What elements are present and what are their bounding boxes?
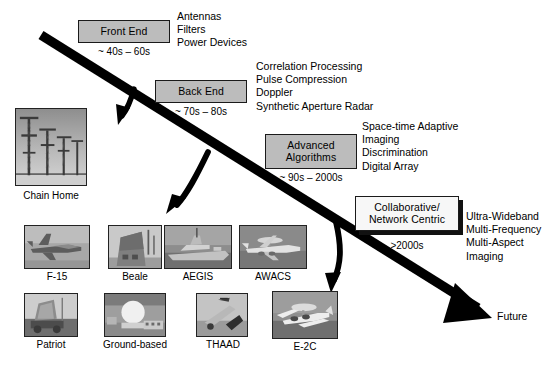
photo-patriot[interactable] (24, 293, 78, 337)
timeline-diagram: Front End ~ 40s – 60s Antennas Filters P… (0, 0, 554, 366)
tech-item: Imaging (362, 133, 458, 146)
photo-caption-chain-home: Chain Home (5, 190, 97, 201)
awacs-aircraft-photo (240, 226, 306, 268)
e2c-hawkeye-photo (273, 292, 337, 338)
tech-item: Doppler (256, 86, 373, 99)
tech-item: Pulse Compression (256, 73, 373, 86)
patriot-launcher-photo (25, 294, 77, 336)
stage-label-advanced-algorithms-line1: Advanced (287, 140, 335, 152)
stage-era-back-end: ~ 70s – 80s (155, 106, 247, 117)
tech-item: Correlation Processing (256, 60, 373, 73)
thaad-launcher-photo (197, 294, 247, 336)
tech-item: Multi-Frequency (466, 223, 541, 236)
stage-era-collaborative-network-centric: >2000s (355, 240, 459, 251)
stage-box-front-end[interactable]: Front End (78, 20, 170, 43)
stage-label-front-end: Front End (100, 26, 147, 38)
future-label: Future (497, 310, 527, 322)
fighter-jet-photo (25, 226, 89, 268)
tech-list-advanced-algorithms: Space-time Adaptive Imaging Discriminati… (362, 120, 458, 173)
photo-awacs[interactable] (239, 225, 307, 269)
stage-box-collaborative-network-centric[interactable]: Collaborative/ Network Centric (355, 196, 459, 231)
stage-era-front-end: ~ 40s – 60s (78, 46, 170, 57)
photo-chain-home[interactable] (15, 108, 87, 186)
tech-item: Discrimination (362, 146, 458, 159)
photo-aegis[interactable] (164, 225, 232, 269)
radome-site-photo (105, 294, 165, 336)
tech-item: Imaging (466, 250, 541, 263)
photo-caption-f-15: F-15 (17, 271, 97, 282)
photo-beale[interactable] (108, 225, 162, 269)
stage-label-advanced-algorithms-line2: Algorithms (286, 152, 337, 164)
photo-caption-aegis: AEGIS (163, 271, 233, 282)
phased-array-building-photo (109, 226, 161, 268)
stage-era-advanced-algorithms: ~ 90s – 2000s (265, 172, 357, 183)
tech-list-collaborative-network-centric: Ultra-Wideband Multi-Frequency Multi-Asp… (466, 210, 541, 263)
photo-caption-thaad: THAAD (188, 339, 258, 350)
photo-thaad[interactable] (196, 293, 248, 337)
tech-list-front-end: Antennas Filters Power Devices (177, 10, 247, 50)
tech-item: Ultra-Wideband (466, 210, 541, 223)
stage-label-collaborative-line1: Collaborative/ (374, 202, 440, 214)
tech-item: Antennas (177, 10, 247, 23)
radar-towers-photo (16, 109, 86, 185)
stage-box-back-end[interactable]: Back End (155, 80, 247, 103)
tech-list-back-end: Correlation Processing Pulse Compression… (256, 60, 373, 113)
tech-item: Synthetic Aperture Radar (256, 100, 373, 113)
stage-box-advanced-algorithms[interactable]: Advanced Algorithms (265, 134, 357, 169)
connector-arrow-middle-row (166, 152, 208, 214)
photo-f-15[interactable] (24, 225, 90, 269)
connector-arrow-chain-home (116, 89, 134, 125)
stage-label-collaborative-line2: Network Centric (369, 214, 445, 226)
tech-item: Filters (177, 23, 247, 36)
tech-item: Power Devices (177, 36, 247, 49)
tech-item: Digital Array (362, 160, 458, 173)
tech-item: Space-time Adaptive (362, 120, 458, 133)
connector-arrow-bottom-row (325, 222, 341, 293)
photo-caption-awacs: AWACS (238, 271, 308, 282)
naval-cruiser-photo (165, 226, 231, 268)
tech-item: Multi-Aspect (466, 236, 541, 249)
photo-ground-based[interactable] (104, 293, 166, 337)
photo-caption-ground-based: Ground-based (92, 339, 178, 350)
photo-caption-patriot: Patriot (16, 339, 86, 350)
photo-e-2c[interactable] (272, 291, 338, 339)
stage-label-back-end: Back End (178, 86, 224, 98)
photo-caption-beale: Beale (100, 271, 170, 282)
photo-caption-e-2c: E-2C (270, 341, 340, 352)
